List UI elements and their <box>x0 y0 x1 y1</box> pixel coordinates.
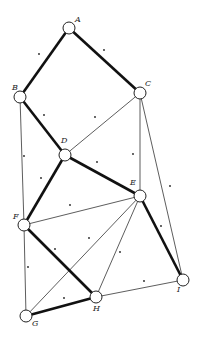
edge-C-I <box>140 93 183 280</box>
node-label-I: I <box>176 285 181 294</box>
face-dot <box>132 153 134 155</box>
node-A <box>63 22 75 34</box>
face-dot <box>94 116 96 118</box>
face-dot <box>143 280 145 282</box>
node-label-D: D <box>60 136 68 145</box>
edge-H-I <box>96 280 183 297</box>
graph-diagram: ABCDEFGHI <box>0 0 202 342</box>
face-dot <box>119 251 121 253</box>
node-label-E: E <box>129 178 136 187</box>
edge-A-B <box>20 28 69 97</box>
node-label-B: B <box>11 83 18 92</box>
edge-D-F <box>24 155 65 225</box>
node-label-F: F <box>12 212 19 221</box>
edges-layer <box>20 28 183 316</box>
edge-E-I <box>140 196 183 280</box>
node-H <box>90 291 102 303</box>
edge-C-D <box>65 93 140 155</box>
node-E <box>134 190 146 202</box>
face-dot <box>27 266 29 268</box>
edge-D-E <box>65 155 140 196</box>
node-C <box>134 87 146 99</box>
edge-F-G <box>24 225 26 316</box>
face-dot <box>23 155 25 157</box>
node-D <box>59 149 71 161</box>
face-dot <box>169 185 171 187</box>
node-label-G: G <box>32 319 39 328</box>
face-dot <box>38 53 40 55</box>
face-dot <box>88 237 90 239</box>
node-label-H: H <box>92 304 101 313</box>
edge-B-F <box>20 97 24 225</box>
edge-F-H <box>24 225 96 297</box>
node-B <box>14 91 26 103</box>
edge-A-C <box>69 28 140 93</box>
node-F <box>18 219 30 231</box>
node-label-C: C <box>145 79 151 88</box>
face-dot <box>160 225 162 227</box>
face-dot <box>40 177 42 179</box>
node-G <box>20 310 32 322</box>
face-dot <box>54 248 56 250</box>
face-dot <box>63 297 65 299</box>
face-dot <box>96 161 98 163</box>
edge-E-H <box>96 196 140 297</box>
face-dot <box>69 204 71 206</box>
face-dot <box>103 49 105 51</box>
face-dot <box>43 114 45 116</box>
node-label-A: A <box>74 15 81 24</box>
edge-E-F <box>24 196 140 225</box>
edge-B-D <box>20 97 65 155</box>
edge-E-G <box>26 196 140 316</box>
edge-G-H <box>26 297 96 316</box>
